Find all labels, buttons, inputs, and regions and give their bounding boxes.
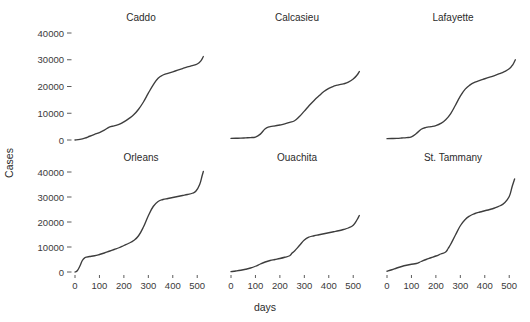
x-tick-label: 100 [404,280,420,291]
x-tick-label: 0 [228,280,233,291]
x-tick-label: 200 [116,280,132,291]
facet-panel-calcasieu: Calcasieu [231,12,359,138]
panel-title-3: Orleans [123,152,158,163]
x-tick-label: 300 [296,280,312,291]
panel-title-0: Caddo [126,12,156,23]
y-tick-label: 20000 [38,217,64,228]
x-tick-label: 400 [165,280,181,291]
x-tick-label: 500 [345,280,361,291]
facet-panel-orleans: Orleans010020030040050001000020000300004… [38,152,206,291]
x-tick-label: 300 [140,280,156,291]
panel-title-5: St. Tammany [424,152,482,163]
x-tick-label: 200 [272,280,288,291]
x-tick-label: 0 [384,280,389,291]
chart-canvas: Caddo010000200003000040000CalcasieuLafay… [0,0,530,322]
x-tick-label: 100 [248,280,264,291]
x-tick-label: 300 [452,280,468,291]
y-tick-label: 40000 [38,28,64,39]
x-tick-label: 400 [477,280,493,291]
y-axis-title: Cases [3,148,15,178]
x-tick-label: 100 [92,280,108,291]
y-tick-label: 20000 [38,81,64,92]
facet-panel-lafayette: Lafayette [387,12,515,139]
series-line-4 [231,216,359,272]
series-line-2 [387,60,515,139]
facet-panel-caddo: Caddo010000200003000040000 [38,12,204,146]
x-tick-label: 500 [501,280,517,291]
y-tick-label: 0 [59,267,64,278]
facet-line-chart: Caddo010000200003000040000CalcasieuLafay… [0,0,530,322]
facet-panel-ouachita: Ouachita0100200300400500 [228,152,361,291]
y-tick-label: 30000 [38,192,64,203]
series-line-3 [75,172,203,273]
x-tick-label: 400 [321,280,337,291]
series-line-1 [231,72,359,139]
series-line-0 [75,57,203,140]
x-tick-label: 200 [428,280,444,291]
panel-title-4: Ouachita [277,152,317,163]
y-tick-label: 0 [59,135,64,146]
x-axis-title: days [254,301,276,313]
y-tick-label: 30000 [38,54,64,65]
y-tick-label: 10000 [38,242,64,253]
x-tick-label: 500 [189,280,205,291]
y-tick-label: 40000 [38,167,64,178]
facet-panel-st-tammany: St. Tammany0100200300400500 [384,152,517,291]
panel-title-1: Calcasieu [275,12,319,23]
panel-title-2: Lafayette [432,12,474,23]
x-tick-label: 0 [72,280,77,291]
series-line-5 [387,179,515,271]
y-tick-label: 10000 [38,108,64,119]
